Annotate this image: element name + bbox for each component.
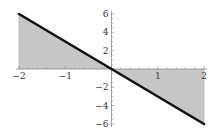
x-tick-label: −2 xyxy=(12,71,25,81)
y-tick-label: −4 xyxy=(95,101,109,111)
x-tick-label: 1 xyxy=(155,71,161,81)
y-tick-label: −2 xyxy=(95,82,108,92)
y-tick-label: −6 xyxy=(95,119,109,129)
y-tick-label: 4 xyxy=(103,27,109,37)
y-tick-label: 6 xyxy=(103,9,109,19)
x-tick-label: −1 xyxy=(59,71,72,81)
plot-canvas: −2−112642−2−4−6 xyxy=(0,0,216,133)
x-tick-label: 2 xyxy=(201,71,207,81)
y-tick-label: 2 xyxy=(103,46,109,56)
